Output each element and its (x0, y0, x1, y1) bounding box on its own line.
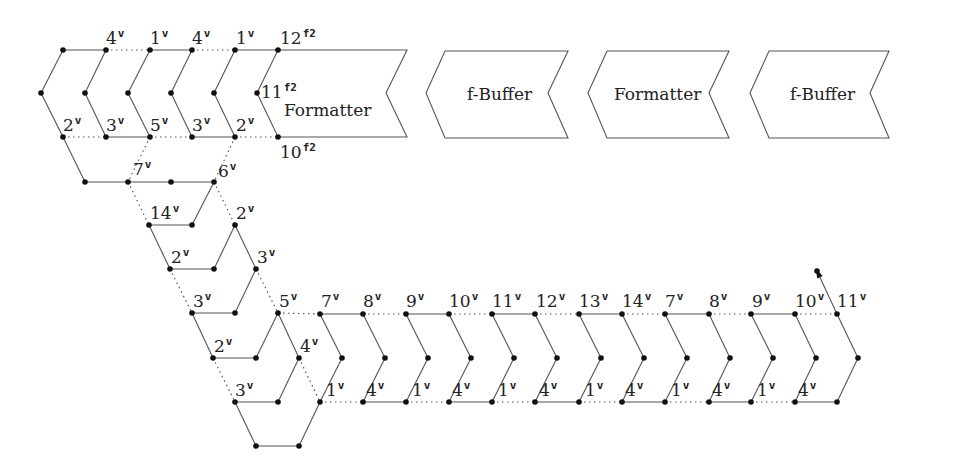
solid-edge (837, 314, 858, 358)
vertex-dot (168, 90, 174, 96)
solid-edge (278, 358, 299, 402)
solid-edge (214, 50, 235, 93)
vertex-dot (446, 399, 452, 405)
solid-edge (299, 402, 320, 446)
vertex-label: 4v (452, 379, 471, 400)
dotted-edge (299, 358, 320, 402)
vertex-label: 4v (625, 379, 644, 400)
vertex-label: 1v (757, 379, 776, 400)
vertex-dot (60, 47, 66, 53)
vertex-dot (382, 355, 388, 361)
vertex-dot (317, 399, 323, 405)
vertex-dot (511, 355, 517, 361)
vertex-label: 2v (236, 202, 255, 223)
vertex-dot (125, 179, 131, 185)
vertex-dot (813, 355, 819, 361)
vertex-dot (275, 47, 281, 53)
vertex-label: 4v (798, 379, 817, 400)
vertex-label: 1v (585, 379, 604, 400)
vertex-dot (211, 90, 217, 96)
vertex-dot (748, 311, 754, 317)
solid-edge (85, 50, 106, 93)
solid-edge (171, 93, 192, 137)
solid-edge (171, 50, 192, 93)
vertex-dot (532, 399, 538, 405)
vertex-dot (103, 47, 109, 53)
vertex-dot (619, 399, 625, 405)
stage-label: Formatter (284, 100, 372, 120)
solid-edge (235, 269, 256, 313)
vertex-dot (576, 399, 582, 405)
vertex-dot (706, 311, 712, 317)
vertex-dot (834, 311, 840, 317)
vertex-dot (146, 222, 152, 228)
vertex-label: 2v (236, 114, 255, 135)
vertex-label: 14v (150, 202, 180, 223)
solid-edge (837, 358, 858, 402)
vertex-dot (814, 268, 820, 274)
vertex-dot (855, 355, 861, 361)
vertex-dot (662, 311, 668, 317)
vertex-dot (147, 47, 153, 53)
vertex-label: 1v (326, 379, 345, 400)
vertex-dot (684, 355, 690, 361)
vertex-label: 10v (795, 290, 825, 311)
vertex-dot (232, 47, 238, 53)
vertex-dot (339, 355, 345, 361)
solid-edge (235, 225, 256, 269)
vertex-label: 4v (192, 27, 211, 48)
vertex-dot (189, 222, 195, 228)
vertex-dot (275, 399, 281, 405)
vertex-label: 11v (837, 290, 867, 311)
vertex-label: 3v (106, 114, 125, 135)
vertex-dot (598, 355, 604, 361)
solid-edge (214, 225, 235, 269)
vertex-dot (232, 310, 238, 316)
vertex-dot (189, 134, 195, 140)
vertex-dot (834, 399, 840, 405)
vertex-label: 1v (498, 379, 517, 400)
solid-edge (535, 314, 557, 358)
solid-edge (41, 93, 63, 137)
vertex-dot (792, 399, 798, 405)
solid-edge (63, 137, 85, 182)
vertex-dot (189, 310, 195, 316)
vertex-dot (662, 399, 668, 405)
solid-edge (751, 314, 773, 358)
vertex-label: 10v (449, 290, 479, 311)
solid-edge (363, 314, 385, 358)
vertex-dot (253, 443, 259, 449)
vertex-label: 3v (192, 114, 211, 135)
pipeline-stages: Formatterf-BufferFormatterf-Buffer (257, 50, 889, 138)
vertex-label: 3v (257, 246, 276, 267)
vertex-dot (748, 399, 754, 405)
solid-edge (192, 182, 214, 225)
solid-edge (320, 314, 342, 358)
vertex-label: 9v (406, 290, 425, 311)
vertex-dot (446, 311, 452, 317)
vertex-dot (210, 355, 216, 361)
stage-label: f-Buffer (790, 84, 856, 104)
vertex-label: 7v (665, 290, 684, 311)
vertex-dot (296, 443, 302, 449)
solid-edge (128, 93, 150, 137)
vertex-dot (706, 399, 712, 405)
vertex-label: 7v (321, 290, 340, 311)
vertex-label: 9v (752, 290, 771, 311)
vertex-dot (792, 311, 798, 317)
vertex-label: 8v (363, 290, 382, 311)
vertex-label: 3v (193, 290, 212, 311)
dotted-edge (214, 182, 235, 225)
stage-formatter-2: Formatter (588, 51, 729, 138)
vertex-dot (253, 355, 259, 361)
vertex-dot (641, 355, 647, 361)
vertex-label: 4v (712, 379, 731, 400)
vertex-dot (103, 134, 109, 140)
solid-edge (192, 313, 213, 358)
vertex-dot (425, 355, 431, 361)
dotted-edge (170, 269, 192, 313)
vertex-dot (489, 311, 495, 317)
vertex-dot (125, 90, 131, 96)
solid-edge (149, 225, 170, 269)
vertex-label: 10f2 (280, 141, 316, 162)
